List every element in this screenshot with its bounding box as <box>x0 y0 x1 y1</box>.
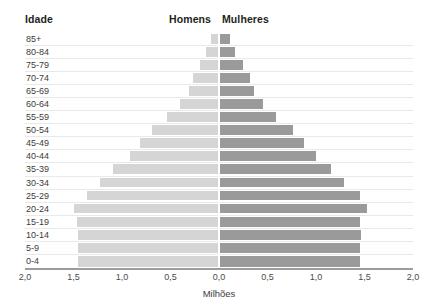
x-axis-tick-label: 1,0 <box>310 272 323 282</box>
age-group-label: 5-9 <box>25 242 39 255</box>
x-axis-title: Milhões <box>203 288 236 299</box>
bar-mulheres <box>219 243 360 253</box>
legend-label-homens: Homens <box>169 13 211 25</box>
bar-mulheres <box>219 164 331 174</box>
age-group-label: 80-84 <box>25 46 49 59</box>
bar-homens <box>74 204 220 214</box>
bar-mulheres <box>219 191 360 201</box>
bar-mulheres <box>219 217 360 227</box>
bar-mulheres <box>219 204 367 214</box>
bar-mulheres <box>219 151 316 161</box>
age-group-label: 85+ <box>25 33 41 46</box>
x-axis-tick-label: 2,0 <box>19 272 32 282</box>
bar-mulheres <box>219 86 254 96</box>
bar-mulheres <box>219 230 361 240</box>
legend-label-mulheres: Mulheres <box>222 13 269 25</box>
plot-area: 85+80-8475-7970-7465-6960-6455-5950-5445… <box>25 33 413 268</box>
bar-homens <box>87 191 219 201</box>
bar-homens <box>130 151 219 161</box>
x-axis-tick-label: 1,0 <box>116 272 129 282</box>
age-group-label: 0-4 <box>25 255 39 268</box>
x-axis-tick-label: 0,5 <box>261 272 274 282</box>
bar-homens <box>193 73 219 83</box>
bar-mulheres <box>219 138 304 148</box>
bar-homens <box>113 164 219 174</box>
age-group-label: 75-79 <box>25 59 49 72</box>
age-group-label: 15-19 <box>25 216 49 229</box>
age-group-label: 40-44 <box>25 150 49 163</box>
age-group-label: 35-39 <box>25 163 49 176</box>
age-group-label: 30-34 <box>25 177 49 190</box>
bar-homens <box>77 217 219 227</box>
bar-mulheres <box>219 34 230 44</box>
x-axis-tick-label: 0,0 <box>213 272 226 282</box>
x-axis-tick-label: 1,5 <box>358 272 371 282</box>
bar-mulheres <box>219 112 276 122</box>
bar-homens <box>78 230 219 240</box>
age-group-label: 10-14 <box>25 229 49 242</box>
bar-homens <box>140 138 219 148</box>
bar-mulheres <box>219 99 263 109</box>
age-group-label: 60-64 <box>25 98 49 111</box>
bar-homens <box>78 256 219 267</box>
bar-mulheres <box>219 125 293 135</box>
age-group-label: 25-29 <box>25 190 49 203</box>
bar-mulheres <box>219 178 344 188</box>
age-group-label: 70-74 <box>25 72 49 85</box>
x-axis-tick-label: 2,0 <box>407 272 420 282</box>
bar-homens <box>167 112 219 122</box>
bar-mulheres <box>219 73 250 83</box>
bar-mulheres <box>219 256 360 267</box>
bar-mulheres <box>219 47 235 57</box>
x-axis-line <box>25 268 413 270</box>
bar-homens <box>152 125 219 135</box>
bar-homens <box>180 99 219 109</box>
population-pyramid-chart: Idade Homens Mulheres 85+80-8475-7970-74… <box>0 0 438 307</box>
x-axis-tick-label: 1,5 <box>67 272 80 282</box>
age-group-label: 50-54 <box>25 124 49 137</box>
x-axis-tick-label: 0,5 <box>164 272 177 282</box>
bar-homens <box>189 86 219 96</box>
bar-homens <box>78 243 219 253</box>
center-divider <box>218 33 220 268</box>
age-group-label: 20-24 <box>25 203 49 216</box>
age-group-label: 65-69 <box>25 85 49 98</box>
age-group-label: 55-59 <box>25 111 49 124</box>
column-header-idade: Idade <box>25 13 53 25</box>
bar-mulheres <box>219 60 243 70</box>
bar-homens <box>100 178 219 188</box>
age-group-label: 45-49 <box>25 137 49 150</box>
bar-homens <box>200 60 219 70</box>
